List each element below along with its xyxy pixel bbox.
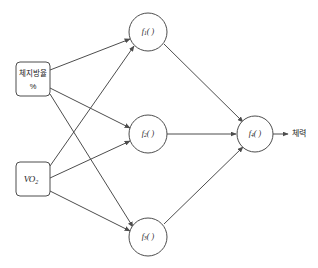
input-box-1-label-line2: % — [30, 82, 37, 91]
input-node-vo2: VO2 — [16, 162, 50, 196]
input-node-body-fat: 체지방율 % — [16, 62, 50, 96]
edge-hidden3-output — [164, 147, 243, 224]
hidden-node-1-label: f1( ) — [142, 27, 155, 36]
hidden-node-1-label-tail: ( ) — [147, 27, 155, 36]
edge-input2-hidden3 — [50, 191, 130, 231]
output-label-text: 체력 — [292, 128, 306, 138]
edges-input-to-hidden — [50, 39, 134, 231]
hidden-node-f3: f3( ) — [129, 218, 167, 256]
input-box-1-label-line1: 체지방율 — [19, 68, 47, 78]
output-node-label: f4( ) — [249, 129, 262, 138]
hidden-node-3-label: f3( ) — [142, 232, 155, 241]
hidden-node-2-label: f2( ) — [142, 129, 155, 138]
hidden-node-3-label-tail: ( ) — [147, 232, 155, 241]
output-node-f4: f4( ) — [237, 116, 273, 152]
edges-hidden-to-output — [164, 44, 243, 224]
edge-input1-hidden1 — [50, 39, 130, 70]
input-box-2-label-sub: 2 — [35, 179, 38, 185]
hidden-node-f2: f2( ) — [129, 115, 167, 153]
diagram-canvas: 체지방율 % VO2 f1( ) f2( ) f3( ) f4( ) — [0, 0, 318, 268]
edge-hidden1-output — [164, 44, 243, 122]
hidden-node-2-label-tail: ( ) — [147, 129, 155, 138]
input-box-2-label-main: VO — [24, 174, 36, 184]
neural-network-diagram: 체지방율 % VO2 f1( ) f2( ) f3( ) f4( ) — [0, 0, 318, 268]
output-node-label-tail: ( ) — [254, 129, 262, 138]
edge-input2-hidden2 — [50, 141, 130, 178]
edge-input1-hidden3 — [50, 94, 133, 227]
hidden-node-f1: f1( ) — [129, 13, 167, 51]
edge-input2-hidden1 — [50, 46, 134, 166]
